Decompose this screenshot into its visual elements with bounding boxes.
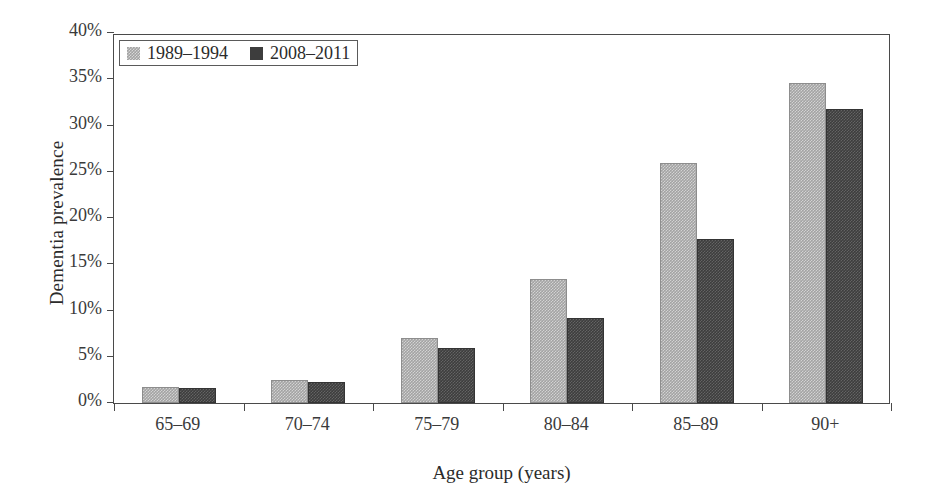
plot-area: 0%5%10%15%20%25%30%35%40% 1989–19942008–… xyxy=(113,34,890,404)
chart-legend: 1989–19942008–2011 xyxy=(119,40,358,66)
legend-swatch-icon xyxy=(127,47,140,60)
y-tick-mark xyxy=(107,263,114,264)
bar xyxy=(438,348,475,403)
x-tick-label: 75–79 xyxy=(372,414,502,435)
x-tick-label: 90+ xyxy=(760,414,890,435)
y-tick-mark xyxy=(107,32,114,33)
y-tick-label: 5% xyxy=(78,344,102,365)
legend-label: 1989–1994 xyxy=(147,44,228,62)
chart-figure: Dementia prevalence 0%5%10%15%20%25%30%3… xyxy=(0,0,927,501)
y-tick-label: 25% xyxy=(69,159,102,180)
x-tick-mark xyxy=(632,403,633,411)
x-tick-mark xyxy=(373,403,374,411)
bar xyxy=(660,163,697,404)
x-tick-mark xyxy=(114,403,115,411)
legend-entry: 1989–1994 xyxy=(123,43,232,63)
y-tick-label: 10% xyxy=(69,298,102,319)
x-tick-label: 65–69 xyxy=(113,414,243,435)
bar xyxy=(530,279,567,403)
bar xyxy=(826,109,863,403)
y-tick-label: 0% xyxy=(78,390,102,411)
y-tick-mark xyxy=(107,171,114,172)
legend-swatch-icon xyxy=(250,47,263,60)
y-tick-mark xyxy=(107,125,114,126)
y-tick-label: 35% xyxy=(69,66,102,87)
x-tick-mark xyxy=(244,403,245,411)
legend-entry: 2008–2011 xyxy=(246,43,354,63)
y-tick-label: 20% xyxy=(69,205,102,226)
bar xyxy=(179,388,216,403)
y-tick-mark xyxy=(107,356,114,357)
x-tick-label: 70–74 xyxy=(242,414,372,435)
x-tick-label: 80–84 xyxy=(501,414,631,435)
bar xyxy=(567,318,604,403)
y-axis-title: Dementia prevalence xyxy=(46,73,68,373)
x-tick-mark xyxy=(762,403,763,411)
bar xyxy=(401,338,438,403)
y-tick-mark xyxy=(107,217,114,218)
x-axis-title: Age group (years) xyxy=(113,462,890,484)
bar xyxy=(142,387,179,403)
bar xyxy=(697,239,734,403)
y-tick-label: 40% xyxy=(69,20,102,41)
bar xyxy=(789,83,826,403)
x-tick-mark xyxy=(503,403,504,411)
x-tick-mark xyxy=(891,403,892,411)
y-tick-mark xyxy=(107,402,114,403)
y-tick-mark xyxy=(107,78,114,79)
bar xyxy=(271,380,308,403)
y-tick-label: 30% xyxy=(69,113,102,134)
legend-label: 2008–2011 xyxy=(270,44,350,62)
bar xyxy=(308,382,345,403)
x-tick-label: 85–89 xyxy=(631,414,761,435)
y-tick-label: 15% xyxy=(69,251,102,272)
y-tick-mark xyxy=(107,310,114,311)
